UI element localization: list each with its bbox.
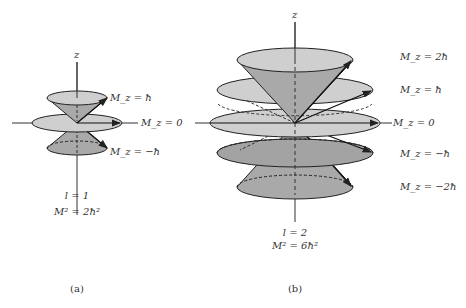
label-mz-minus2-b: M_z = −2ħ: [399, 181, 456, 193]
label-mz-0-b: M_z = 0: [392, 117, 435, 129]
m-squared-b: M² = 6ħ²: [271, 240, 318, 251]
label-mz-minus1-b: M_z = −ħ: [399, 148, 450, 160]
caption-b: (b): [288, 283, 302, 294]
z-axis-label-b: z: [291, 9, 298, 20]
label-mz-plus2-b: M_z = 2ħ: [399, 51, 448, 63]
caption-a: (a): [70, 283, 84, 294]
figure-b: z: [195, 9, 456, 294]
l-value-a: l = 1: [65, 190, 89, 201]
l-value-b: l = 2: [283, 227, 307, 238]
label-mz-plus1-a: M_z = ħ: [109, 92, 152, 104]
z-axis-label-a: z: [73, 49, 80, 60]
label-mz-minus1-a: M_z = −ħ: [109, 146, 160, 158]
figure-a: z M_z = ħ M_z = 0 M_z = −ħ l = 1 M² = 2ħ…: [12, 49, 183, 294]
m-squared-a: M² = 2ħ²: [53, 206, 100, 217]
label-mz-plus1-b: M_z = ħ: [399, 84, 442, 96]
label-mz-0-a: M_z = 0: [140, 117, 183, 129]
angular-momentum-diagram: z M_z = ħ M_z = 0 M_z = −ħ l = 1 M² = 2ħ…: [0, 0, 466, 308]
